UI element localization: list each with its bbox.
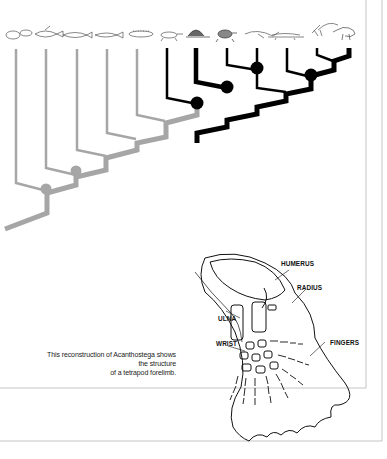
label-leaders	[226, 270, 325, 356]
turtle-icon	[216, 30, 237, 42]
cladogram-figure: HUMERUS RADIUS ULNA WRIST FINGERS	[0, 0, 387, 459]
lungfish-icon	[129, 31, 153, 37]
wrist-bones	[240, 340, 278, 373]
taxa-icons	[6, 23, 355, 42]
label-radius: RADIUS	[297, 284, 323, 291]
black-branches	[167, 48, 349, 143]
caption-line-3: of a tetrapod forelimb.	[40, 368, 176, 377]
caption-line-1: This reconstruction of Acanthostega show…	[40, 350, 176, 359]
forelimb-illustration	[195, 254, 350, 441]
fish-icon	[95, 32, 123, 38]
early-tetrapod-icon	[161, 32, 183, 41]
label-wrist: WRIST	[216, 340, 237, 347]
lobe-fin-fish-icon	[6, 30, 32, 39]
crocodile-icon	[268, 34, 304, 41]
black-node	[221, 81, 234, 94]
black-node	[191, 97, 204, 110]
label-ulna: ULNA	[218, 315, 236, 322]
black-node	[305, 69, 318, 82]
pterosaur-icon	[312, 23, 338, 36]
figure-caption: This reconstruction of Acanthostega show…	[40, 350, 176, 377]
fish-icon	[63, 32, 92, 38]
black-node	[251, 62, 264, 75]
dimetrodon-icon	[186, 30, 210, 37]
caption-line-2: the structure	[40, 359, 176, 368]
label-humerus: HUMERUS	[281, 260, 315, 267]
dinosaur-icon	[333, 27, 355, 40]
gray-node	[71, 166, 82, 177]
label-fingers: FINGERS	[330, 339, 360, 346]
fish-icon	[35, 26, 63, 37]
gray-node	[41, 184, 52, 195]
